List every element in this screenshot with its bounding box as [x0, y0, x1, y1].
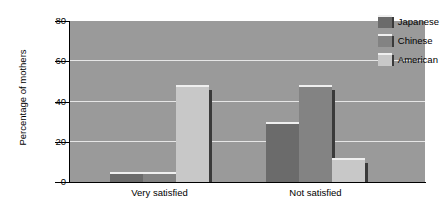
legend-swatch-shadow	[392, 17, 394, 28]
y-tick-label-80: 80	[40, 15, 66, 26]
legend-swatch-chinese	[378, 34, 392, 47]
legend-swatch-japanese	[378, 15, 392, 28]
x-axis-label-not-satisfied: Not satisfied	[256, 187, 376, 198]
bar-face	[110, 174, 143, 182]
y-tick-label-60: 60	[40, 55, 66, 66]
bar-highlight-edge	[143, 172, 176, 174]
bar-japanese-not-satisfied	[266, 124, 299, 182]
y-tick-label-0: 0	[40, 176, 66, 187]
bar-face	[143, 174, 176, 182]
bar-chart: Percentage of mothers 020406080 Very sat…	[0, 0, 445, 221]
bar-shadow-edge	[209, 90, 212, 182]
legend-label-american: American	[398, 54, 438, 65]
plot-area	[70, 21, 425, 182]
bar-highlight-edge	[266, 122, 299, 124]
bar-japanese-very-satisfied	[110, 174, 143, 182]
legend-item-chinese: Chinese	[378, 34, 439, 47]
y-axis-title: Percentage of mothers	[17, 18, 28, 178]
bar-chinese-very-satisfied	[143, 174, 176, 182]
legend-label-chinese: Chinese	[398, 35, 433, 46]
legend-label-japanese: Japanese	[398, 16, 439, 27]
legend-swatch-american	[378, 53, 392, 66]
y-tick-label-20: 20	[40, 136, 66, 147]
bar-chinese-not-satisfied	[299, 87, 332, 182]
legend-item-japanese: Japanese	[378, 15, 439, 28]
bar-highlight-edge	[332, 158, 365, 160]
bar-american-very-satisfied	[176, 87, 209, 182]
bar-face	[176, 87, 209, 182]
bar-face	[332, 160, 365, 182]
x-axis-label-very-satisfied: Very satisfied	[100, 187, 220, 198]
bar-american-not-satisfied	[332, 160, 365, 182]
legend-swatch-shadow	[392, 55, 394, 66]
gridline-40	[70, 101, 425, 102]
legend: JapaneseChineseAmerican	[378, 15, 439, 66]
y-tick-label-40: 40	[40, 96, 66, 107]
bar-highlight-edge	[176, 85, 209, 87]
bar-highlight-edge	[299, 85, 332, 87]
gridline-60	[70, 60, 425, 61]
legend-item-american: American	[378, 53, 439, 66]
bar-face	[299, 87, 332, 182]
bar-shadow-edge	[365, 163, 368, 182]
y-axis-line	[69, 21, 70, 183]
bar-face	[266, 124, 299, 182]
x-axis-line	[69, 182, 426, 183]
bar-highlight-edge	[110, 172, 143, 174]
legend-swatch-shadow	[392, 36, 394, 47]
gridline-20	[70, 141, 425, 142]
